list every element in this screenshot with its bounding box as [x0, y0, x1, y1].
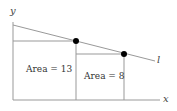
area-label-2: Area = 8	[84, 71, 124, 81]
line-l	[13, 25, 155, 61]
diagram-canvas	[0, 0, 177, 111]
area-label-1: Area = 13	[26, 64, 72, 74]
point-2	[121, 51, 127, 57]
line-label: l	[157, 54, 160, 65]
point-1	[73, 38, 79, 44]
y-axis-label: y	[10, 5, 16, 16]
x-axis-label: x	[163, 93, 169, 104]
